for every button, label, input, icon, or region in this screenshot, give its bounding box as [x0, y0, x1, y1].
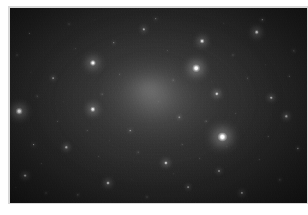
image-page: [0, 0, 308, 215]
vignette-overlay: [10, 8, 307, 203]
caption-strip: [0, 204, 308, 215]
sky-image-frame: [10, 8, 307, 203]
